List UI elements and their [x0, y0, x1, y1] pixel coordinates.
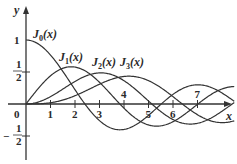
- x-tick-2: 2: [72, 108, 78, 120]
- y-axis-arrow-icon: [23, 6, 29, 14]
- y-tick-1: 1: [14, 34, 20, 46]
- x-tick-4: 4: [121, 88, 127, 100]
- label-j0: J0(x): [32, 27, 57, 43]
- y-tick-neg-half-num: 1: [16, 122, 22, 134]
- x-tick-7: 7: [195, 88, 201, 100]
- label-j2: J2(x): [91, 55, 116, 71]
- bessel-chart: x y 0 1 1 2 − 1 2 1234567 J0(x) J1(x) J2…: [0, 0, 237, 164]
- x-axis-arrow-icon: [224, 101, 232, 107]
- y-axis-label: y: [12, 3, 20, 17]
- label-j3: J3(x): [119, 55, 144, 71]
- curves: [26, 40, 234, 130]
- origin-label: 0: [14, 108, 20, 120]
- x-tick-1: 1: [48, 108, 54, 120]
- y-tick-half-num: 1: [16, 58, 22, 70]
- y-tick-neg-half-minus: −: [3, 130, 9, 142]
- chart-canvas: x y 0 1 1 2 − 1 2 1234567 J0(x) J1(x) J2…: [0, 0, 237, 164]
- x-axis-label: x: [225, 109, 232, 123]
- y-tick-half-den: 2: [16, 71, 22, 83]
- y-tick-neg-half-den: 2: [16, 135, 22, 147]
- label-j1: J1(x): [58, 50, 83, 66]
- curve-j2: [26, 73, 234, 124]
